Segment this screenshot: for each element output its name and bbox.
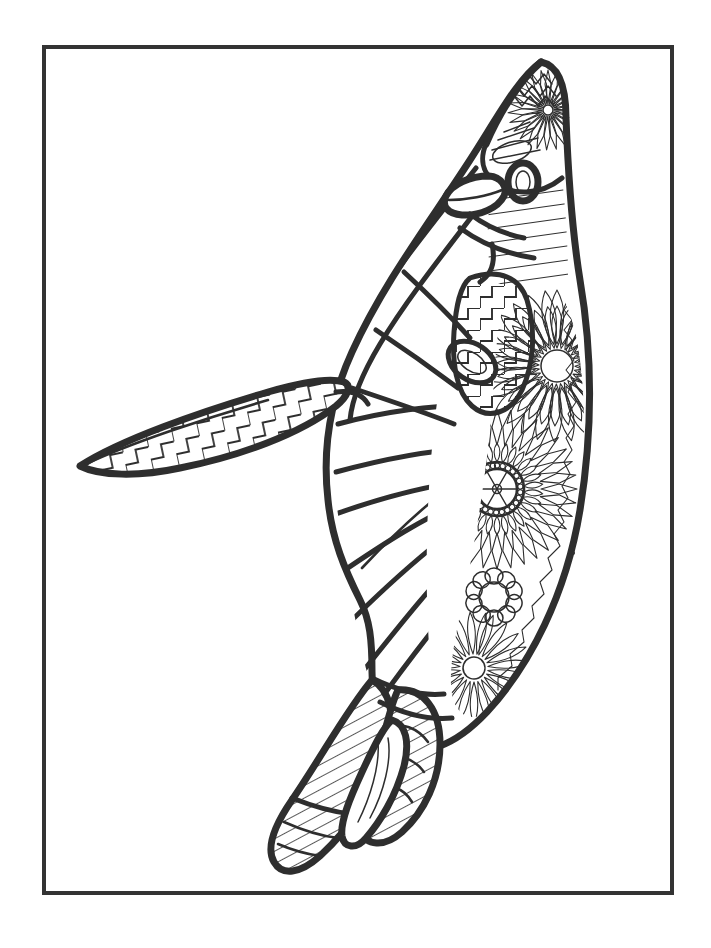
ink-speck <box>571 551 575 555</box>
feet-group <box>260 670 460 890</box>
coloring-page <box>0 0 711 948</box>
penguin-artwork <box>0 0 711 948</box>
penguin-body <box>70 55 633 890</box>
